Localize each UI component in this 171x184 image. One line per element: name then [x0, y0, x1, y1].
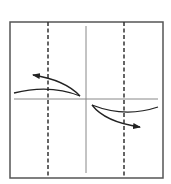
upper-left-flap-edge — [14, 89, 80, 96]
origami-diagram — [0, 0, 171, 184]
lower-right-flap-edge — [92, 105, 158, 112]
fold-diagram-svg — [0, 0, 171, 184]
lower-right-fold-arrow-icon — [92, 105, 140, 127]
